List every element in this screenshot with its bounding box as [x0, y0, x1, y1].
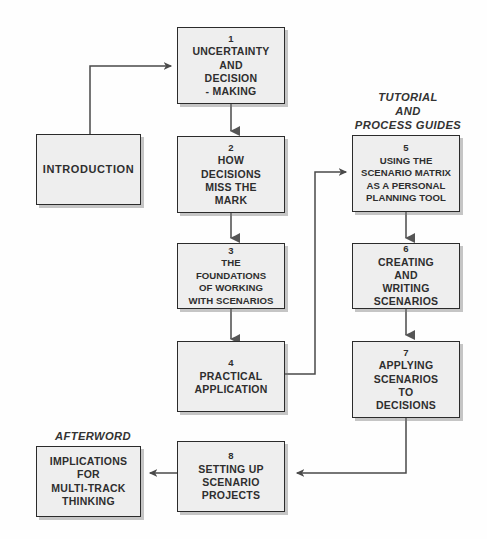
- caption-line: AND: [338, 104, 478, 118]
- node-line: UNCERTAINTY: [192, 45, 269, 58]
- node-number: 2: [228, 142, 233, 155]
- node-text: UNCERTAINTY AND DECISION - MAKING: [192, 45, 269, 98]
- node-line: OF WORKING: [199, 282, 263, 294]
- node-line: WITH SCENARIOS: [189, 295, 274, 307]
- caption-tutorial-and-process-guides: TUTORIAL AND PROCESS GUIDES: [338, 90, 478, 132]
- node-line: FOUNDATIONS: [196, 270, 266, 282]
- node-line: DECISION: [205, 72, 258, 85]
- node-text: INTRODUCTION: [43, 163, 135, 176]
- node-line: WRITING: [382, 282, 429, 295]
- node-line: MULTI-TRACK: [51, 482, 125, 495]
- node-number: 4: [228, 357, 233, 370]
- node-line: APPLICATION: [194, 383, 267, 396]
- node-text: HOW DECISIONS MISS THE MARK: [201, 154, 261, 207]
- node-line: THE: [221, 257, 240, 269]
- node-line: PRACTICAL: [200, 370, 263, 383]
- wire-chapter-4-to-chapter-5: [285, 172, 346, 374]
- caption-afterword: AFTERWORD: [38, 429, 148, 443]
- node-afterword-chapter[interactable]: IMPLICATIONS FOR MULTI-TRACK THINKING: [36, 446, 141, 517]
- node-line: IMPLICATIONS: [50, 455, 127, 468]
- node-text: USING THE SCENARIO MATRIX AS A PERSONAL …: [361, 155, 451, 205]
- node-number: 7: [403, 347, 408, 360]
- node-line: - MAKING: [205, 85, 256, 98]
- node-line: HOW: [218, 154, 244, 167]
- node-line: AS A PERSONAL: [367, 180, 446, 192]
- node-line: DECISIONS: [376, 399, 436, 412]
- node-chapter-5[interactable]: 5 USING THE SCENARIO MATRIX AS A PERSONA…: [352, 135, 460, 212]
- node-line: AND: [394, 269, 418, 282]
- node-chapter-4[interactable]: 4 PRACTICAL APPLICATION: [177, 341, 285, 412]
- node-number: 3: [228, 245, 233, 258]
- node-chapter-2[interactable]: 2 HOW DECISIONS MISS THE MARK: [177, 136, 285, 213]
- node-chapter-3[interactable]: 3 THE FOUNDATIONS OF WORKING WITH SCENAR…: [177, 243, 285, 309]
- node-number: 5: [403, 142, 408, 155]
- node-chapter-1[interactable]: 1 UNCERTAINTY AND DECISION - MAKING: [177, 27, 285, 104]
- caption-line: TUTORIAL: [338, 90, 478, 104]
- node-line: SCENARIO: [202, 476, 259, 489]
- node-text: PRACTICAL APPLICATION: [194, 370, 267, 396]
- node-line: FOR: [77, 468, 100, 481]
- node-text: SETTING UP SCENARIO PROJECTS: [198, 463, 264, 503]
- node-number: 1: [228, 33, 233, 46]
- node-text: THE FOUNDATIONS OF WORKING WITH SCENARIO…: [189, 257, 274, 307]
- node-introduction[interactable]: INTRODUCTION: [36, 134, 141, 205]
- node-line: SCENARIOS: [374, 295, 439, 308]
- node-text: APPLYING SCENARIOS TO DECISIONS: [374, 359, 439, 412]
- node-line: SETTING UP: [198, 463, 264, 476]
- wire-introduction-to-chapter-1: [90, 66, 171, 135]
- node-line: CREATING: [378, 256, 434, 269]
- node-line: TO: [399, 386, 414, 399]
- node-line: USING THE: [380, 155, 433, 167]
- node-line: SCENARIOS: [374, 373, 439, 386]
- node-text: IMPLICATIONS FOR MULTI-TRACK THINKING: [50, 455, 127, 508]
- node-line: AND: [219, 59, 243, 72]
- node-line: DECISIONS: [201, 168, 261, 181]
- node-line: MARK: [215, 194, 248, 207]
- node-line: SCENARIO MATRIX: [361, 167, 451, 179]
- flowchart-diagram: TUTORIAL AND PROCESS GUIDES AFTERWORD IN…: [0, 0, 487, 539]
- node-line: APPLYING: [379, 359, 434, 372]
- node-line: PLANNING TOOL: [366, 192, 446, 204]
- wire-chapter-7-to-chapter-8: [297, 417, 406, 473]
- node-chapter-8[interactable]: 8 SETTING UP SCENARIO PROJECTS: [177, 441, 285, 512]
- node-line: PROJECTS: [202, 489, 261, 502]
- caption-line: PROCESS GUIDES: [338, 118, 478, 132]
- caption-line: AFTERWORD: [38, 429, 148, 443]
- node-number: 8: [228, 450, 233, 463]
- node-line: INTRODUCTION: [43, 163, 135, 176]
- node-text: CREATING AND WRITING SCENARIOS: [374, 256, 439, 309]
- node-line: MISS THE: [205, 181, 257, 194]
- node-chapter-7[interactable]: 7 APPLYING SCENARIOS TO DECISIONS: [352, 341, 460, 418]
- node-number: 6: [403, 243, 408, 256]
- node-chapter-6[interactable]: 6 CREATING AND WRITING SCENARIOS: [352, 243, 460, 309]
- node-line: THINKING: [62, 495, 115, 508]
